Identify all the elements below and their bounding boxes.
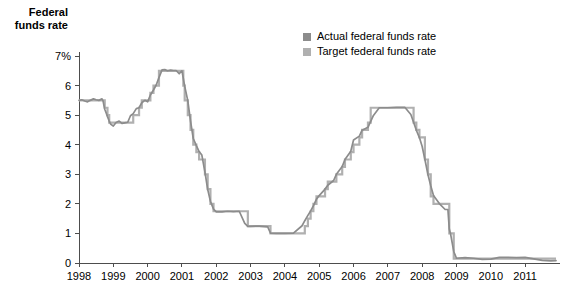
- y-axis-tick-label: 0: [45, 258, 71, 269]
- federal-funds-rate-chart: Federal funds rate Actual federal funds …: [0, 0, 588, 291]
- y-axis-tick-label: 1: [45, 228, 71, 239]
- y-axis-tick-label: 5: [45, 110, 71, 121]
- x-axis-tick-label: 2011: [505, 271, 545, 282]
- legend-swatch-actual-icon: [303, 33, 311, 41]
- y-axis-tick-label: 3: [45, 169, 71, 180]
- y-axis-tick-label: 6: [45, 81, 71, 92]
- legend-item-target: Target federal funds rate: [303, 45, 436, 58]
- y-axis-tick-label: 7%: [45, 51, 71, 62]
- legend-item-actual: Actual federal funds rate: [303, 30, 436, 43]
- y-axis-tick-label: 4: [45, 140, 71, 151]
- legend-swatch-target-icon: [303, 48, 311, 56]
- chart-legend: Actual federal funds rate Target federal…: [303, 30, 436, 60]
- plot-area: [0, 0, 588, 291]
- legend-label-actual: Actual federal funds rate: [317, 31, 436, 42]
- y-axis-tick-label: 2: [45, 199, 71, 210]
- legend-label-target: Target federal funds rate: [317, 46, 436, 57]
